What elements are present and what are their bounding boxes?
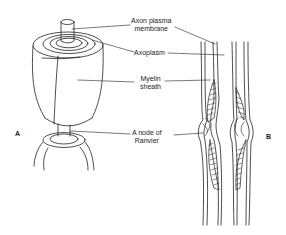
axon-illustration bbox=[0, 0, 286, 235]
label-line: Ranvier bbox=[132, 137, 162, 145]
label-line: membrane bbox=[131, 25, 171, 33]
node-axon bbox=[34, 124, 94, 170]
longitudinal-section bbox=[198, 42, 253, 225]
label-line: Axoplasm bbox=[134, 49, 165, 57]
label-myelin-sheath: Myelin sheath bbox=[140, 75, 161, 91]
panel-label-a: A bbox=[15, 130, 20, 137]
panel-label-b: B bbox=[266, 133, 271, 140]
label-node-of-ranvier: A node of Ranvier bbox=[132, 129, 162, 145]
label-line: A node of bbox=[132, 129, 162, 137]
label-axoplasm: Axoplasm bbox=[134, 49, 165, 57]
myelin-cylinder bbox=[32, 20, 103, 127]
diagram-canvas: Axon plasma membrane Axoplasm Myelin she… bbox=[0, 0, 286, 235]
label-line: Axon plasma bbox=[131, 17, 171, 25]
label-axon-plasma-membrane: Axon plasma membrane bbox=[131, 17, 171, 33]
label-line: Myelin bbox=[140, 75, 161, 83]
label-line: sheath bbox=[140, 83, 161, 91]
